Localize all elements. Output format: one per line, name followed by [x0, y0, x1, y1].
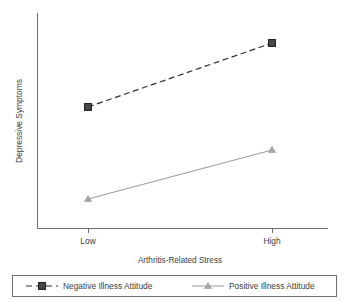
- legend-label-positive: Positive Illness Attitude: [229, 281, 315, 291]
- x-tick-label-low: Low: [80, 236, 96, 246]
- chart-legend: Negative Illness Attitude Positive Illne…: [13, 276, 337, 297]
- series-negative-line: [88, 43, 272, 107]
- axis-lines: [37, 13, 328, 233]
- legend-marker-square-icon: [39, 283, 46, 290]
- series-negative-illness-attitude: [85, 40, 276, 111]
- x-tick-label-high: High: [263, 236, 281, 246]
- y-axis-title: Depressive Symptoms: [14, 79, 24, 163]
- x-axis-title: Arthritis-Related Stress: [138, 256, 222, 265]
- series-positive-illness-attitude: [85, 147, 276, 202]
- chart-figure: Low High Arthritis-Related Stress Depres…: [0, 0, 350, 302]
- series-positive-marker-high: [269, 147, 276, 153]
- series-positive-line: [88, 150, 272, 199]
- series-negative-marker-high: [269, 40, 276, 47]
- legend-item-negative-illness-attitude[interactable]: Negative Illness Attitude: [26, 281, 153, 291]
- line-chart-canvas: Low High Arthritis-Related Stress Depres…: [0, 0, 350, 302]
- legend-label-negative: Negative Illness Attitude: [63, 281, 153, 291]
- series-negative-marker-low: [85, 104, 92, 111]
